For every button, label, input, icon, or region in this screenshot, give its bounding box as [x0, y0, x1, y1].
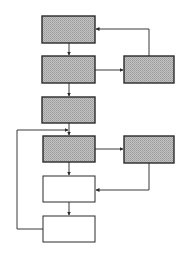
process-box-3 — [42, 97, 95, 123]
process-box-6 — [43, 216, 95, 242]
edge-side1-box1 — [96, 29, 149, 56]
side-box-1 — [124, 56, 174, 83]
flowchart-diagram — [0, 0, 189, 257]
process-box-4 — [43, 136, 95, 162]
process-box-5 — [43, 176, 95, 202]
edge-side2-box5 — [96, 163, 149, 190]
process-box-1 — [42, 16, 95, 43]
process-box-2 — [42, 56, 95, 83]
side-box-2 — [124, 136, 174, 163]
